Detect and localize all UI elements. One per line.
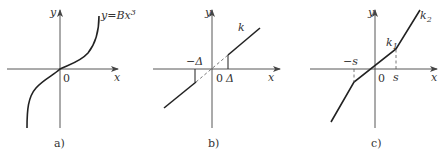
negative-segment xyxy=(164,82,196,108)
origin-label: 0 xyxy=(63,72,70,85)
panel-c: y x 0 k1 k2 −s s c) xyxy=(310,6,438,150)
caption-b: b) xyxy=(208,137,219,150)
slope1-label: k1 xyxy=(386,36,398,51)
caption-a: a) xyxy=(54,137,65,150)
slope2-label: k2 xyxy=(420,9,432,24)
caption-c: c) xyxy=(371,137,381,150)
panel-b: y x 0 k −Δ Δ b) xyxy=(153,6,280,150)
x-axis-label: x xyxy=(114,71,121,84)
pos-delta-label: Δ xyxy=(225,72,234,85)
x-axis-label: x xyxy=(431,71,438,84)
neg-break-label: −s xyxy=(343,55,358,68)
pos-break-label: s xyxy=(393,71,399,84)
x-axis-label: x xyxy=(268,71,275,84)
y-axis-label: y xyxy=(204,6,212,19)
diagram-canvas: y x 0 y=Bx3 a) y x 0 k −Δ Δ b) y x 0 k1 … xyxy=(0,0,442,155)
curve-equation-label: y=Bx3 xyxy=(100,8,136,22)
y-axis-label: y xyxy=(49,6,57,19)
origin-label: 0 xyxy=(216,72,223,85)
neg-delta-label: −Δ xyxy=(186,55,203,68)
panel-a: y x 0 y=Bx3 a) xyxy=(7,6,136,150)
slope-label-k: k xyxy=(238,21,245,34)
origin-label: 0 xyxy=(378,72,385,85)
y-axis-label: y xyxy=(367,6,375,19)
